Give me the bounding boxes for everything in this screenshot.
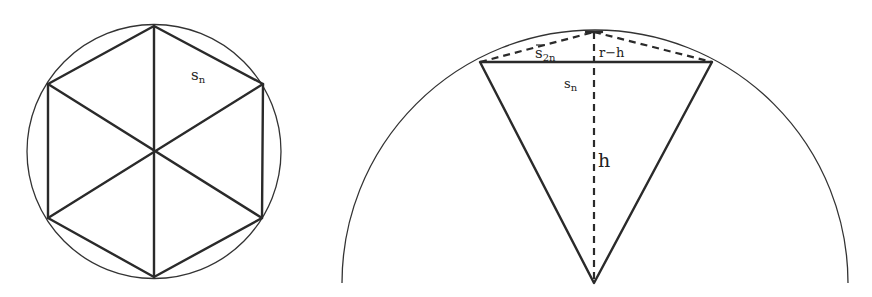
label-sn: sn <box>564 76 578 93</box>
label-side-sn: sn <box>191 66 206 85</box>
geometry-diagram: sn s2n r−h sn h <box>0 0 872 297</box>
central-triangle <box>480 62 712 283</box>
hexagon-figure: sn <box>27 25 281 279</box>
label-h: h <box>598 149 610 171</box>
label-r-minus-h: r−h <box>599 45 625 60</box>
segment-figure: s2n r−h sn h <box>342 30 848 283</box>
label-s2n: s2n <box>535 44 556 63</box>
